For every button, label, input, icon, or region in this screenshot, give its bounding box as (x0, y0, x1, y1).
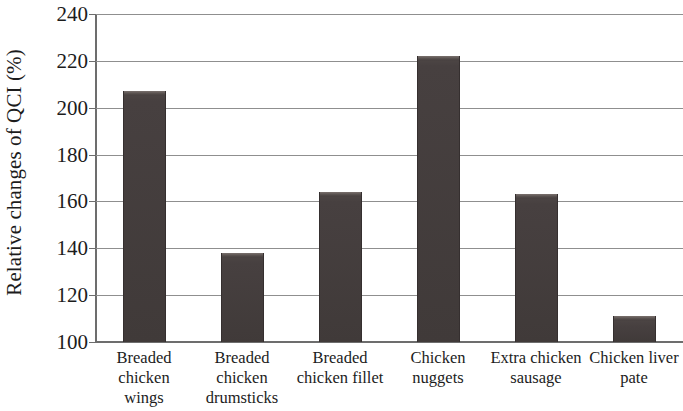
x-axis-tick-labels: BreadedchickenwingsBreadedchickendrumsti… (95, 348, 683, 411)
x-axis-tick-label-line: Extra chicken (487, 348, 585, 368)
x-axis-tick-label: Breadedchicken fillet (291, 348, 389, 388)
x-axis-tick-label-line: wings (95, 388, 193, 408)
y-axis-title-text: Relative changes of QCI (%) (2, 49, 27, 295)
x-axis-tick-label-line: Breaded (291, 348, 389, 368)
x-axis-tick-label: Breadedchickenwings (95, 348, 193, 408)
y-axis-tick-label: 180 (26, 145, 88, 166)
x-axis-tick-label-line: drumsticks (193, 388, 291, 408)
bar (417, 56, 460, 342)
bar-chart-figure: Relative changes of QCI (%) 240220200180… (0, 0, 683, 411)
x-axis-tick-label-line: chicken (193, 368, 291, 388)
y-axis-tick-label: 100 (26, 332, 88, 353)
y-axis-title: Relative changes of QCI (%) (0, 0, 28, 345)
y-axis-tick-label: 240 (26, 4, 88, 25)
y-axis-tick-mark (89, 342, 96, 343)
bars-layer (95, 14, 683, 342)
bar (123, 91, 166, 342)
x-axis-tick-label-line: sausage (487, 368, 585, 388)
x-axis-tick-label-line: Breaded (95, 348, 193, 368)
bar (319, 192, 362, 342)
y-axis-tick-labels: 240220200180160140120100 (26, 0, 88, 350)
x-axis-tick-label-line: nuggets (389, 368, 487, 388)
x-axis-tick-label-line: pate (585, 368, 683, 388)
x-axis-tick-label-line: Chicken liver (585, 348, 683, 368)
x-axis-tick-label-line: chicken fillet (291, 368, 389, 388)
y-axis-tick-label: 160 (26, 191, 88, 212)
y-axis-tick-label: 120 (26, 285, 88, 306)
x-axis-tick-label: Chickennuggets (389, 348, 487, 388)
plot-area (95, 14, 683, 342)
x-axis-tick-label-line: chicken (95, 368, 193, 388)
bar (515, 194, 558, 342)
y-axis-tick-label: 200 (26, 98, 88, 119)
y-axis-tick-label: 220 (26, 51, 88, 72)
bar (613, 316, 656, 342)
x-axis-tick-label-line: Breaded (193, 348, 291, 368)
x-axis-tick-label-line: Chicken (389, 348, 487, 368)
x-axis-tick-label: Extra chickensausage (487, 348, 585, 388)
x-axis-tick-label: Breadedchickendrumsticks (193, 348, 291, 408)
bar (221, 253, 264, 342)
y-axis-tick-label: 140 (26, 238, 88, 259)
x-axis-tick-label: Chicken liverpate (585, 348, 683, 388)
